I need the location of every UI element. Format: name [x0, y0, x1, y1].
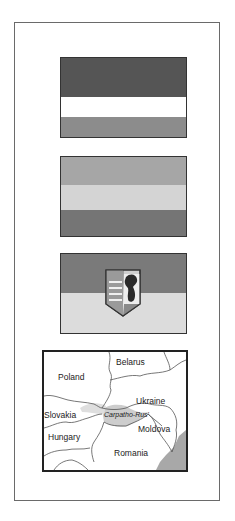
flag-1-band-middle — [61, 97, 186, 117]
map-label-slovakia: Slovakia — [44, 410, 76, 420]
map-label-belarus: Belarus — [116, 357, 145, 367]
map-label-ukraine: Ukraine — [136, 396, 165, 406]
flag-2-band-bottom — [61, 210, 186, 237]
flag-1-band-bottom — [61, 117, 186, 138]
flag-1 — [60, 57, 187, 138]
region-map: Belarus Poland Ukraine Slovakia Carpatho… — [42, 350, 188, 472]
flag-2-band-middle — [61, 185, 186, 210]
map-label-hungary: Hungary — [48, 432, 80, 442]
map-label-poland: Poland — [58, 372, 84, 382]
map-label-romania: Romania — [114, 448, 148, 458]
flag-1-band-top — [61, 58, 186, 97]
flag-3 — [60, 253, 187, 334]
map-label-moldova: Moldova — [138, 424, 170, 434]
coat-of-arms-icon — [104, 268, 142, 318]
flag-2-band-top — [61, 157, 186, 185]
flag-2 — [60, 156, 187, 237]
map-label-highlighted-region: Carpatho-Rus' — [104, 411, 149, 418]
